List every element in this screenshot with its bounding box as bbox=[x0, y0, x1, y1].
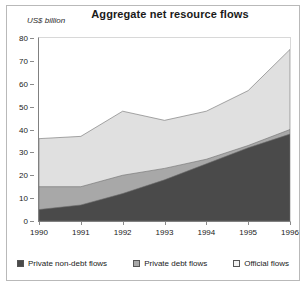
x-axis-tick-labels: 1990199119921993199419951996 bbox=[38, 225, 291, 241]
chart-legend: Private non-debt flowsPrivate debt flows… bbox=[10, 255, 296, 271]
y-axis-tick-mark bbox=[30, 152, 34, 153]
x-axis-tick-mark bbox=[39, 222, 40, 225]
y-axis-tick-label: 80 bbox=[19, 34, 28, 43]
stacked-area-series bbox=[39, 38, 290, 221]
y-axis-tick-label: 20 bbox=[19, 171, 28, 180]
x-axis-tick-mark bbox=[165, 222, 166, 225]
legend-item-label: Private non-debt flows bbox=[28, 259, 107, 268]
x-axis-tick-mark bbox=[206, 222, 207, 225]
y-axis-tick-label: 60 bbox=[19, 79, 28, 88]
legend-swatch-icon bbox=[17, 260, 24, 267]
legend-item: Official flows bbox=[233, 259, 289, 268]
x-axis-tick-label: 1993 bbox=[156, 228, 174, 237]
y-axis-tick-mark bbox=[30, 84, 34, 85]
y-axis-tick-label: 30 bbox=[19, 148, 28, 157]
legend-swatch-icon bbox=[133, 260, 140, 267]
y-axis-tick-labels: 80706050403020100 bbox=[0, 37, 34, 222]
y-axis-tick-label: 40 bbox=[19, 125, 28, 134]
x-axis-tick-mark bbox=[81, 222, 82, 225]
y-axis-tick-mark bbox=[30, 221, 34, 222]
y-axis-tick-mark bbox=[30, 61, 34, 62]
y-axis-tick-mark bbox=[30, 175, 34, 176]
x-axis-tick-label: 1995 bbox=[239, 228, 257, 237]
chart-figure: Aggregate net resource flows US$ billion… bbox=[0, 0, 307, 287]
x-axis-tick-label: 1994 bbox=[197, 228, 215, 237]
x-axis-tick-label: 1991 bbox=[72, 228, 90, 237]
x-axis-tick-label: 1996 bbox=[281, 228, 299, 237]
y-axis-tick-label: 70 bbox=[19, 56, 28, 65]
plot-area bbox=[38, 37, 291, 222]
y-axis-unit-label: US$ billion bbox=[27, 16, 65, 25]
legend-item: Private non-debt flows bbox=[17, 259, 107, 268]
x-axis-tick-mark bbox=[290, 222, 291, 225]
x-axis-tick-mark bbox=[123, 222, 124, 225]
y-axis-tick-label: 50 bbox=[19, 102, 28, 111]
x-axis-tick-mark bbox=[248, 222, 249, 225]
y-axis-tick-mark bbox=[30, 130, 34, 131]
chart-title: Aggregate net resource flows bbox=[55, 8, 285, 20]
y-axis-tick-label: 0 bbox=[24, 217, 28, 226]
x-axis-tick-label: 1992 bbox=[114, 228, 132, 237]
legend-item: Private debt flows bbox=[133, 259, 207, 268]
legend-swatch-icon bbox=[233, 260, 240, 267]
legend-item-label: Private debt flows bbox=[144, 259, 207, 268]
x-axis-tick-label: 1990 bbox=[30, 228, 48, 237]
y-axis-tick-mark bbox=[30, 198, 34, 199]
y-axis-tick-mark bbox=[30, 38, 34, 39]
y-axis-tick-mark bbox=[30, 107, 34, 108]
y-axis-tick-label: 10 bbox=[19, 194, 28, 203]
legend-item-label: Official flows bbox=[244, 259, 289, 268]
